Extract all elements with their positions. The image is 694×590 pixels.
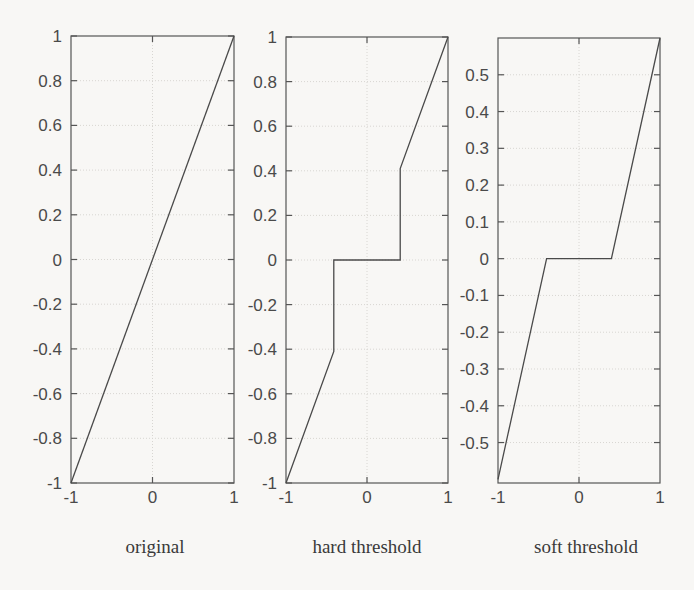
y-tick-label: 0.3	[465, 139, 489, 158]
y-tick-label: -0.6	[248, 385, 277, 404]
x-tick-label: -1	[63, 488, 78, 507]
figure-container: -1-0.8-0.6-0.4-0.200.20.40.60.81-101 ori…	[0, 0, 694, 590]
y-tick-label: -0.5	[460, 434, 489, 453]
y-tick-label: -1	[47, 474, 62, 493]
y-tick-label: 0	[480, 250, 489, 269]
y-tick-label: -1	[262, 474, 277, 493]
y-tick-label: -0.2	[248, 296, 277, 315]
plot-panel-soft-threshold: -0.5-0.4-0.3-0.2-0.100.10.20.30.40.5-101…	[428, 0, 694, 590]
plot-svg-hard-threshold: -1-0.8-0.6-0.4-0.200.20.40.60.81-101	[214, 0, 464, 520]
x-tick-label: 1	[655, 488, 664, 507]
y-tick-label: -0.3	[460, 360, 489, 379]
y-tick-label: 0.6	[38, 116, 62, 135]
y-tick-label: 0.2	[253, 206, 277, 225]
x-tick-label: -1	[278, 488, 293, 507]
y-tick-label: 0	[53, 251, 62, 270]
x-tick-label: -1	[490, 488, 505, 507]
x-tick-label: 0	[148, 488, 157, 507]
plot-svg-soft-threshold: -0.5-0.4-0.3-0.2-0.100.10.20.30.40.5-101	[428, 0, 694, 520]
plot-svg-original: -1-0.8-0.6-0.4-0.200.20.40.60.81-101	[0, 0, 250, 520]
y-tick-label: 0.2	[465, 176, 489, 195]
y-tick-label: 0	[268, 251, 277, 270]
plot-panel-original: -1-0.8-0.6-0.4-0.200.20.40.60.81-101 ori…	[0, 0, 250, 590]
y-tick-label: -0.8	[248, 429, 277, 448]
y-tick-label: -0.8	[33, 429, 62, 448]
x-tick-label: 0	[574, 488, 583, 507]
y-tick-label: 0.8	[38, 72, 62, 91]
x-tick-label: 0	[362, 488, 371, 507]
y-tick-label: 1	[53, 27, 62, 46]
y-tick-label: 0.4	[253, 162, 277, 181]
y-tick-label: -0.2	[460, 323, 489, 342]
y-tick-label: 1	[268, 28, 277, 47]
y-tick-label: 0.1	[465, 213, 489, 232]
y-tick-label: 0.6	[253, 117, 277, 136]
y-tick-label: 0.2	[38, 206, 62, 225]
y-tick-label: 0.8	[253, 73, 277, 92]
y-tick-label: 0.4	[465, 103, 489, 122]
y-tick-label: -0.4	[460, 397, 489, 416]
plot-panel-hard-threshold: -1-0.8-0.6-0.4-0.200.20.40.60.81-101 har…	[214, 0, 464, 590]
y-tick-label: -0.1	[460, 286, 489, 305]
y-tick-label: -0.2	[33, 295, 62, 314]
y-tick-label: -0.4	[248, 340, 277, 359]
y-tick-label: 0.5	[465, 66, 489, 85]
y-tick-label: -0.4	[33, 340, 62, 359]
y-tick-label: 0.4	[38, 161, 62, 180]
y-tick-label: -0.6	[33, 385, 62, 404]
panel-caption-soft-threshold: soft threshold	[486, 536, 686, 558]
